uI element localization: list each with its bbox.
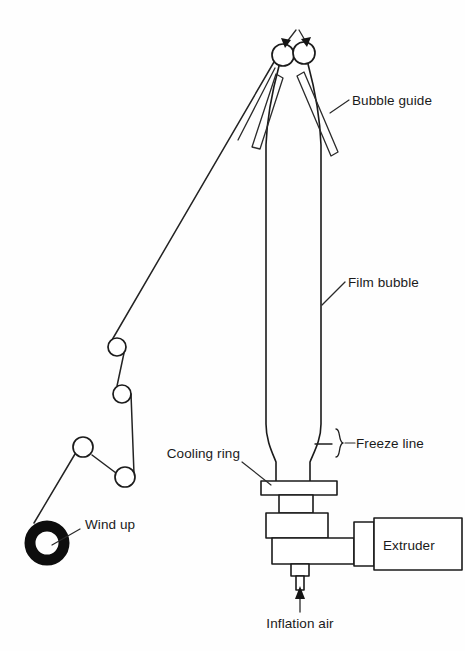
label-text-group: Bubble guide Film bubble Freeze line Coo… (85, 93, 435, 631)
wind-up-roll (30, 526, 64, 560)
freeze-line-brace (336, 429, 343, 457)
inflation-air-label: Inflation air (266, 616, 334, 631)
idler-roller-2 (113, 385, 131, 403)
die-neck (279, 495, 313, 513)
bubble-guide-label: Bubble guide (352, 93, 432, 108)
web-span-idler3-to-windup (34, 454, 75, 523)
bubble-guide-leader (330, 100, 349, 113)
wind-up-roll-group (30, 526, 64, 560)
web-span-idler1-to-idler2 (117, 353, 124, 386)
idler-roller-3 (73, 437, 93, 457)
bubble-guide-left-slat (252, 74, 283, 149)
film-bubble-group (266, 64, 321, 487)
schematic-canvas: Bubble guide Film bubble Freeze line Coo… (0, 0, 465, 651)
air-inlet-collar (291, 564, 309, 576)
wind-up-label: Wind up (85, 517, 135, 532)
nip-roller-right (293, 42, 315, 64)
film-bubble-label: Film bubble (348, 275, 419, 290)
cooling-ring-plate (261, 481, 337, 495)
label-leaders-group (52, 100, 349, 545)
extruder-adapter-flange (354, 522, 374, 566)
die-head-upper (266, 513, 328, 538)
cooling-ring-label: Cooling ring (167, 446, 240, 461)
nip-roller-assembly (272, 30, 315, 66)
web-span-idler4-to-idler3 (92, 455, 116, 473)
idler-roller-4 (115, 467, 135, 487)
film-bubble-left-wall (266, 66, 279, 487)
idler-roller-1 (108, 338, 126, 356)
cooling-ring-group (261, 481, 337, 495)
bubble-guide-left-arm (238, 68, 275, 140)
die-head-lower (272, 538, 354, 564)
bubble-guide-group (238, 68, 338, 156)
film-bubble-leader (322, 282, 345, 305)
web-span-idler2-to-idler4 (131, 394, 134, 474)
freeze-line-label: Freeze line (356, 436, 424, 451)
nip-roller-left (272, 44, 294, 66)
extruder-label: Extruder (383, 538, 435, 553)
blown-film-diagram: Bubble guide Film bubble Freeze line Coo… (0, 0, 465, 651)
web-span-nip-to-idler1 (112, 62, 274, 340)
cooling-ring-leader (242, 462, 271, 485)
